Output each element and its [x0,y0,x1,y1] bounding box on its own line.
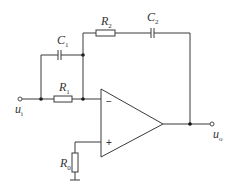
resistor-r2 [96,30,115,36]
label-c2: C2 [147,10,159,26]
label-input-ui: ui [15,102,23,118]
label-c1: C1 [57,33,69,49]
output-terminal [210,122,214,126]
circuit-diagram: − + C1 R2 C2 R1 R0 ui uo [0,0,234,196]
label-r0: R0 [59,156,71,172]
inverting-input-sign: − [106,96,112,107]
circuit-svg: − + C1 R2 C2 R1 R0 ui uo [0,0,234,196]
input-terminal [18,97,22,101]
resistor-r1 [54,96,72,102]
junction-output [188,122,192,126]
resistor-r0 [72,153,78,172]
label-r2: R2 [100,14,112,30]
label-output-uo: uo [213,127,223,143]
noninverting-input-sign: + [106,137,112,148]
label-r1: R1 [58,80,70,96]
